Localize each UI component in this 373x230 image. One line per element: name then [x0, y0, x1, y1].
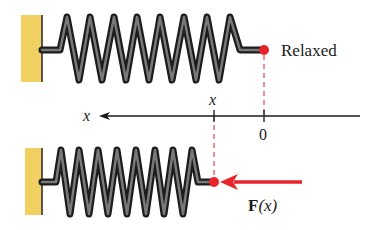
- top-spring-assembly: Relaxed: [21, 15, 337, 82]
- axis-direction-label: x: [82, 107, 90, 124]
- force-label: F(x): [248, 196, 278, 215]
- force-argument: (x): [258, 196, 277, 215]
- top-spring-coil: [42, 17, 264, 80]
- top-wall: [21, 15, 41, 82]
- relaxed-label: Relaxed: [281, 41, 337, 60]
- force-symbol: F: [248, 196, 258, 215]
- bottom-spring-coil: [42, 150, 214, 214]
- x-axis: x 0 x: [82, 91, 360, 143]
- tick-x-label: x: [208, 91, 216, 108]
- tick-zero-label: 0: [259, 126, 267, 143]
- bottom-spring-end-marker: [209, 177, 219, 187]
- top-spring-end-marker: [259, 45, 269, 55]
- spring-diagram: Relaxed x 0 x F(x): [0, 0, 373, 230]
- bottom-spring-assembly: F(x): [25, 148, 302, 215]
- force-arrow-icon: [220, 174, 302, 190]
